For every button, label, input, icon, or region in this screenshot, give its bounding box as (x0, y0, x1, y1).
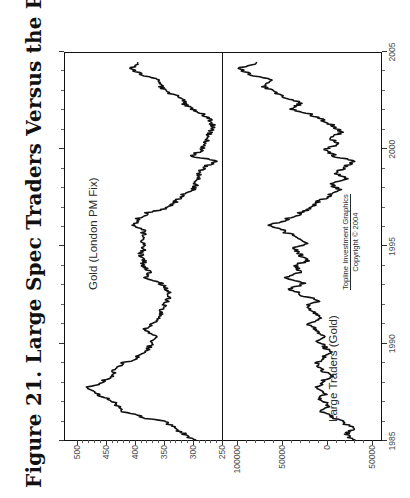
x-tick-label-1990: 1990 (387, 334, 397, 353)
y-axis-traders-minor-tick (318, 440, 319, 443)
y-axis-traders-minor-tick (363, 440, 364, 443)
y-axis-gold-minor-tick (82, 440, 83, 443)
x-tick-label-1995: 1995 (387, 237, 397, 256)
y-axis-traders-minor-tick (300, 440, 301, 443)
y-axis-traders-minor-tick (273, 440, 274, 443)
y-axis-traders-tick-label-50000: 50000 (277, 445, 287, 469)
y-axis-traders-tick-label-100000: 100000 (232, 445, 242, 473)
y-axis-gold-minor-tick (175, 440, 176, 443)
y-axis-traders-minor-tick (291, 440, 292, 443)
y-axis-gold-minor-tick (88, 440, 89, 443)
y-axis-gold-minor-tick (129, 440, 130, 443)
y-axis-traders-minor-tick (264, 440, 265, 443)
y-axis-gold-minor-tick (94, 440, 95, 443)
y-axis-gold-minor-tick (216, 440, 217, 443)
y-axis-gold-minor-tick (199, 440, 200, 443)
y-axis-gold-tick-label-300: 300 (188, 445, 198, 459)
y-axis-traders-tick-label-0: 0 (322, 445, 332, 450)
y-axis-gold-tick-label-350: 350 (159, 445, 169, 459)
y-axis-traders-minor-tick (255, 440, 256, 443)
y-axis-traders-minor-tick (246, 440, 247, 443)
y-axis-gold-minor-tick (123, 440, 124, 443)
y-axis-gold-minor-tick (117, 440, 118, 443)
y-axis-gold-minor-tick (205, 440, 206, 443)
y-axis-traders-minor-tick (336, 440, 337, 443)
y-axis-gold-tick-label-450: 450 (101, 445, 111, 459)
credit-block: Topline Investment Graphics Copyright © … (341, 194, 361, 290)
panel-large-traders: Large Traders (Gold) Topline Investment … (223, 53, 381, 440)
x-tick-label-2005: 2005 (387, 43, 397, 62)
y-axis-gold-minor-tick (181, 440, 182, 443)
y-axis-traders-minor-tick (345, 440, 346, 443)
y-axis-gold-minor-tick (152, 440, 153, 443)
figure-title: Figure 21. Large Spec Traders Versus the… (22, 10, 46, 488)
y-axis-gold-tick-label-400: 400 (130, 445, 140, 459)
x-tick-label-1985: 1985 (387, 432, 397, 451)
series-label-gold-price: Gold (London PM Fix) (87, 178, 99, 291)
y-axis-gold-minor-tick (146, 440, 147, 443)
y-axis-traders-minor-tick (354, 440, 355, 443)
y-axis-traders-tick-label-50000: 50000 (367, 445, 377, 469)
figure-stage: Figure 21. Large Spec Traders Versus the… (12, 10, 398, 488)
credit-company: Topline Investment Graphics (341, 194, 351, 290)
panel-gold-price: Gold (London PM Fix) 500450400350300250 (65, 53, 223, 440)
y-axis-gold-minor-tick (187, 440, 188, 443)
y-axis-gold-minor-tick (158, 440, 159, 443)
x-tick-label-2000: 2000 (387, 140, 397, 159)
y-axis-gold-minor-tick (112, 440, 113, 443)
y-axis-traders-minor-tick (309, 440, 310, 443)
y-axis-gold-minor-tick (170, 440, 171, 443)
credit-copyright: Copyright © 2004 (351, 194, 360, 290)
y-axis-gold-tick-label-250: 250 (217, 445, 227, 459)
y-axis-gold-minor-tick (210, 440, 211, 443)
y-axis-gold-minor-tick (100, 440, 101, 443)
y-axis-gold-minor-tick (141, 440, 142, 443)
y-axis-gold-tick-label-500: 500 (72, 445, 82, 459)
chart-panels: Gold (London PM Fix) 500450400350300250 … (64, 52, 382, 441)
x-axis-years: 1985 1990 1995 2000 2005 (382, 52, 396, 441)
series-label-large-traders: Large Traders (Gold) (327, 315, 339, 422)
